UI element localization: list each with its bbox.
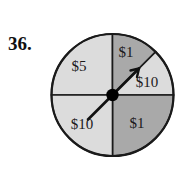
spinner-hub[interactable] bbox=[106, 89, 118, 101]
figure-root: 36. $5 $1 $10 $1 $10 bbox=[0, 0, 195, 170]
sector-label-1-lower-right: $1 bbox=[130, 115, 145, 131]
sector-label-5-upper-left: $5 bbox=[72, 58, 87, 74]
sector-label-10-lower-left: $10 bbox=[71, 116, 94, 132]
sector-label-10-right: $10 bbox=[136, 74, 159, 90]
sector-label-1-top-right: $1 bbox=[119, 44, 134, 60]
spinner-diagram: $5 $1 $10 $1 $10 bbox=[0, 0, 195, 170]
